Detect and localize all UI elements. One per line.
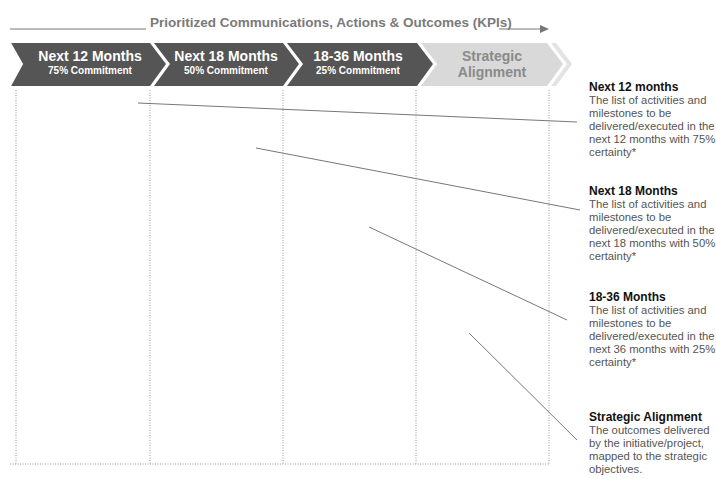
chevron-label-18-36: 18-36 Months 25% Commitment xyxy=(298,48,418,77)
description-strategic: Strategic Alignment The outcomes deliver… xyxy=(589,411,716,476)
description-body: The outcomes delivered by the initiative… xyxy=(589,424,710,475)
chevron-subtitle: 25% Commitment xyxy=(298,64,418,77)
leader-line-next-12 xyxy=(138,103,577,122)
chevron-subtitle: 75% Commitment xyxy=(30,64,150,77)
chevron-subtitle: 50% Commitment xyxy=(166,64,286,77)
description-body: The list of activities and milestones to… xyxy=(589,304,715,368)
leader-line-next-18 xyxy=(256,148,580,210)
description-body: The list of activities and milestones to… xyxy=(589,94,715,158)
leader-line-18-36 xyxy=(369,227,567,320)
chevron-title: Next 12 Months xyxy=(30,48,150,64)
description-next-18: Next 18 Months The list of activities an… xyxy=(589,185,716,263)
description-body: The list of activities and milestones to… xyxy=(589,198,715,262)
header-title: Prioritized Communications, Actions & Ou… xyxy=(150,15,430,30)
description-heading: Next 18 Months xyxy=(589,185,716,198)
chevron-label-next-18: Next 18 Months 50% Commitment xyxy=(166,48,286,77)
description-18-36: 18-36 Months The list of activities and … xyxy=(589,291,716,369)
chevron-label-next-12: Next 12 Months 75% Commitment xyxy=(30,48,150,77)
description-heading: 18-36 Months xyxy=(589,291,716,304)
description-next-12: Next 12 months The list of activities an… xyxy=(589,81,716,159)
chevron-title: 18-36 Months xyxy=(298,48,418,64)
leader-line-strategic xyxy=(469,333,577,440)
description-heading: Next 12 months xyxy=(589,81,716,94)
leader-lines xyxy=(138,103,580,440)
dotted-grid xyxy=(10,90,549,464)
chevron-title: Strategic xyxy=(432,48,552,64)
description-heading: Strategic Alignment xyxy=(589,411,716,424)
chevron-label-strategic: Strategic Alignment xyxy=(432,48,552,80)
chevron-title-line2: Alignment xyxy=(432,64,552,80)
chevron-title: Next 18 Months xyxy=(166,48,286,64)
